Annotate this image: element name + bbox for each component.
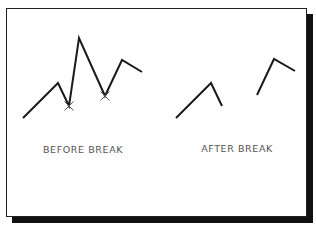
after-segment-2 xyxy=(257,59,295,95)
after-break-figure xyxy=(176,59,295,118)
after-break-label: AFTER BREAK xyxy=(201,143,273,154)
diagram-canvas xyxy=(0,0,316,225)
x-mark-icon xyxy=(101,92,110,101)
before-break-figure xyxy=(23,38,142,118)
after-segment-1 xyxy=(176,83,222,118)
before-polyline xyxy=(23,38,142,118)
before-break-label: BEFORE BREAK xyxy=(43,144,123,155)
